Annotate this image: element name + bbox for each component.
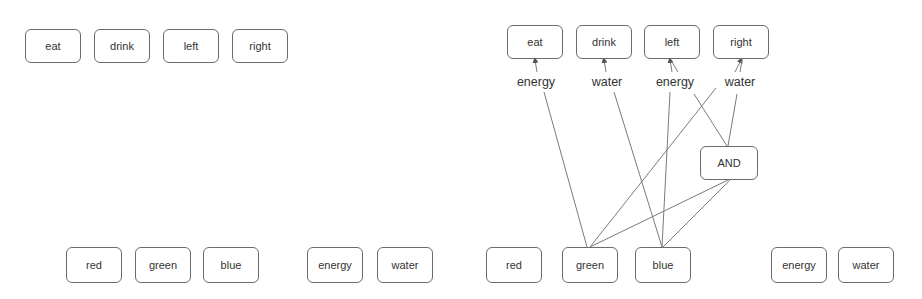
input-node-water: water: [377, 247, 433, 283]
edge-blue-to-energy-label-left: [662, 92, 670, 247]
node-label: water: [392, 259, 419, 271]
node-label: drink: [110, 40, 134, 52]
action-node-drink: drink: [576, 25, 632, 59]
and-gate-node: AND: [700, 146, 758, 180]
edge-label-water: water: [725, 75, 756, 89]
edge-green-to-water-label-right: [590, 88, 716, 247]
node-label: blue: [653, 259, 674, 271]
action-node-right: right: [713, 25, 769, 59]
input-node-water: water: [838, 247, 894, 283]
edge-energy-label-left-to-left: [670, 60, 672, 72]
node-label: red: [506, 259, 522, 271]
node-label: AND: [717, 157, 740, 169]
action-node-left: left: [163, 29, 219, 63]
edge-green-to-energy-label-eat: [544, 92, 587, 247]
input-node-red: red: [486, 247, 542, 283]
edge-energy-label-eat-to-eat: [535, 60, 537, 72]
node-label: water: [853, 259, 880, 271]
edge-label-energy: energy: [517, 75, 555, 89]
node-label: left: [184, 40, 199, 52]
edge-and-gate-to-energy-label-left: [694, 94, 727, 146]
input-node-red: red: [66, 247, 122, 283]
action-node-drink: drink: [94, 29, 150, 63]
node-label: eat: [45, 40, 60, 52]
input-node-blue: blue: [203, 247, 259, 283]
action-node-left: left: [644, 25, 700, 59]
edge-blue-to-and-gate: [663, 180, 730, 247]
edge-label-energy: energy: [656, 75, 694, 89]
node-label: eat: [527, 36, 542, 48]
edge-energy-label-left-2-to-left: [672, 62, 678, 72]
node-label: drink: [592, 36, 616, 48]
edge-water-label-drink-to-drink: [604, 60, 606, 72]
node-label: blue: [221, 259, 242, 271]
input-node-energy: energy: [307, 247, 363, 283]
node-label: green: [149, 259, 177, 271]
input-node-green: green: [562, 247, 618, 283]
node-label: left: [665, 36, 680, 48]
action-node-right: right: [232, 29, 288, 63]
input-node-energy: energy: [771, 247, 827, 283]
node-label: right: [249, 40, 270, 52]
edge-label-water: water: [592, 75, 623, 89]
node-label: energy: [782, 259, 816, 271]
node-label: energy: [318, 259, 352, 271]
node-label: right: [730, 36, 751, 48]
node-label: red: [86, 259, 102, 271]
input-node-blue: blue: [635, 247, 691, 283]
node-label: green: [576, 259, 604, 271]
action-node-eat: eat: [507, 25, 563, 59]
action-node-eat: eat: [25, 29, 81, 63]
edge-and-gate-to-water-label-right: [728, 94, 737, 146]
input-node-green: green: [135, 247, 191, 283]
